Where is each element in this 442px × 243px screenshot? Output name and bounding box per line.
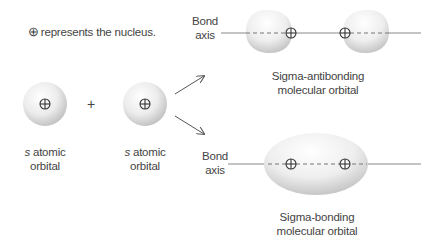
legend-text: represents the nucleus. bbox=[41, 26, 156, 38]
s-atomic-orbital-1 bbox=[23, 82, 67, 126]
s-orbital-label-2: s atomic orbital bbox=[110, 145, 180, 173]
sigma-antibonding-orbital bbox=[221, 10, 421, 53]
label-line: axis bbox=[188, 28, 222, 42]
sigma-bonding-orbital bbox=[228, 133, 421, 195]
bond-axis-label-bottom: Bond axis bbox=[198, 149, 232, 177]
legend: ⊕represents the nucleus. bbox=[28, 25, 156, 39]
s-orbital-label-1: s atomic orbital bbox=[10, 145, 80, 173]
label-line: Sigma-bonding bbox=[257, 210, 377, 224]
bonding-caption: Sigma-bonding molecular orbital bbox=[257, 210, 377, 238]
s-atomic-orbital-2 bbox=[123, 82, 167, 126]
nucleus-symbol-icon: ⊕ bbox=[28, 24, 39, 39]
label-line: molecular orbital bbox=[258, 83, 378, 97]
label-line: orbital bbox=[10, 159, 80, 173]
nucleus-icon bbox=[40, 99, 50, 109]
label-line: Sigma-antibonding bbox=[258, 69, 378, 83]
nucleus-icon bbox=[286, 159, 296, 169]
label-line: axis bbox=[198, 163, 232, 177]
plus-operator: + bbox=[87, 96, 95, 112]
bond-axis-label-top: Bond axis bbox=[188, 14, 222, 42]
antibonding-caption: Sigma-antibonding molecular orbital bbox=[258, 69, 378, 97]
arrow-down-icon bbox=[175, 116, 204, 134]
label-line: orbital bbox=[110, 159, 180, 173]
label-line: Bond bbox=[188, 14, 222, 28]
label-line: atomic bbox=[130, 146, 166, 158]
nucleus-icon bbox=[140, 99, 150, 109]
label-line: molecular orbital bbox=[257, 224, 377, 238]
nucleus-icon bbox=[340, 159, 350, 169]
label-line: atomic bbox=[30, 146, 66, 158]
label-line: Bond bbox=[198, 149, 232, 163]
nucleus-icon bbox=[286, 28, 296, 38]
arrow-up-icon bbox=[175, 76, 204, 94]
nucleus-icon bbox=[340, 28, 350, 38]
